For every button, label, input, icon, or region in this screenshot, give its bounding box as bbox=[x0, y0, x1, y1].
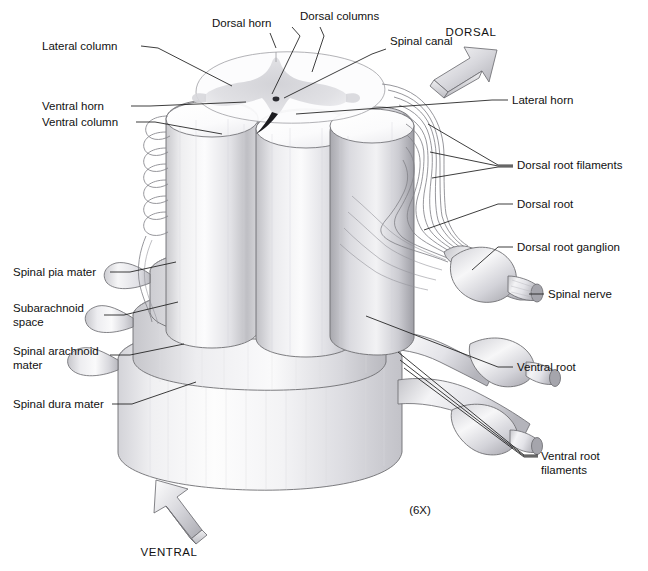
label-spinal-dura-mater: Spinal dura mater bbox=[13, 398, 104, 410]
dorsal-column-cylinder bbox=[330, 107, 414, 355]
label-dorsal-root-ganglion: Dorsal root ganglion bbox=[517, 241, 620, 253]
label-dorsal-root: Dorsal root bbox=[517, 198, 574, 210]
dorsal-arrow-label: DORSAL bbox=[446, 26, 497, 38]
label-ventral-column: Ventral column bbox=[42, 116, 118, 128]
label-spinal-nerve: Spinal nerve bbox=[548, 288, 612, 300]
label-subarachnoid-space-line1: Subarachnoid bbox=[13, 302, 84, 314]
label-spinal-arachnoid-mater-line1: Spinal arachnoid bbox=[13, 345, 99, 357]
label-spinal-canal: Spinal canal bbox=[390, 35, 453, 47]
label-lateral-horn: Lateral horn bbox=[512, 94, 573, 106]
label-dorsal-columns: Dorsal columns bbox=[300, 10, 379, 22]
white-matter-columns bbox=[166, 100, 414, 357]
label-ventral-horn: Ventral horn bbox=[42, 100, 104, 112]
ventral-arrow-label: VENTRAL bbox=[140, 546, 197, 558]
label-spinal-arachnoid-mater-line2: mater bbox=[13, 359, 43, 371]
label-subarachnoid-space-line2: space bbox=[13, 316, 44, 328]
label-dorsal-horn: Dorsal horn bbox=[212, 17, 271, 29]
label-spinal-pia-mater: Spinal pia mater bbox=[13, 266, 96, 278]
label-lateral-column: Lateral column bbox=[42, 40, 117, 52]
label-ventral-root-filaments-line1: Ventral root bbox=[541, 450, 601, 462]
spinal-canal-dot bbox=[273, 97, 280, 102]
label-ventral-root: Ventral root bbox=[517, 361, 577, 373]
figure-canvas: DORSAL VENTRAL (6X) Lateral column bbox=[0, 0, 648, 571]
scale-label: (6X) bbox=[409, 504, 431, 516]
label-ventral-root-filaments-line2: filaments bbox=[541, 464, 587, 476]
spinal-cord-illustration: DORSAL VENTRAL (6X) Lateral column bbox=[0, 0, 648, 571]
label-dorsal-root-filaments: Dorsal root filaments bbox=[517, 159, 623, 171]
